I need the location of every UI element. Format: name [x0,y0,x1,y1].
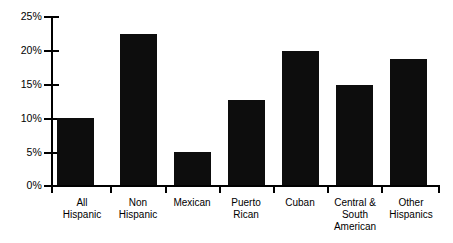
plot-area: 25% 20% 15% 10% 5% 0% [0,0,453,243]
x-category-label-mexican: Mexican [162,197,222,209]
y-tick-label-0-wrap: 0% [0,180,42,191]
y-tick-label-0: 0% [2,180,42,191]
x-tick-7 [438,185,440,193]
y-tick-20 [44,50,59,52]
x-category-label-other-hispanics: Other Hispanics [380,197,442,221]
bar-puerto-rican [228,100,265,185]
x-tick-1 [110,185,112,193]
bar-mexican [174,152,211,185]
bar-chart: 25% 20% 15% 10% 5% 0% [0,0,453,243]
bar-non-hispanic [120,34,157,185]
x-tick-3 [219,185,221,193]
x-category-label-central-south-american: Central & South American [322,197,388,233]
x-tick-5 [327,185,329,193]
y-tick-25 [44,16,59,18]
y-tick-label-20-wrap: 20% [0,45,42,56]
y-tick-label-25: 25% [2,11,42,22]
x-category-label-cuban: Cuban [270,197,330,209]
bar-other-hispanics [390,59,427,185]
y-tick-label-15: 15% [2,79,42,90]
y-tick-label-10: 10% [2,113,42,124]
x-tick-6 [381,185,383,193]
x-tick-4 [273,185,275,193]
x-category-label-puerto-rican: Puerto Rican [216,197,276,221]
y-tick-15 [44,84,59,86]
y-tick-label-20: 20% [2,45,42,56]
y-axis-line [51,16,53,186]
x-tick-2 [165,185,167,193]
x-tick-0 [51,185,53,193]
bar-all-hispanic [57,118,94,185]
y-tick-label-5: 5% [2,147,42,158]
bar-cuban [282,51,319,185]
y-tick-label-5-wrap: 5% [0,147,42,158]
bar-central-south-american [336,85,373,185]
x-category-label-all-hispanic: All Hispanic [52,197,112,221]
y-tick-label-15-wrap: 15% [0,79,42,90]
x-category-label-non-hispanic: Non Hispanic [108,197,168,221]
y-tick-label-25-wrap: 25% [0,11,42,22]
y-tick-label-10-wrap: 10% [0,113,42,124]
